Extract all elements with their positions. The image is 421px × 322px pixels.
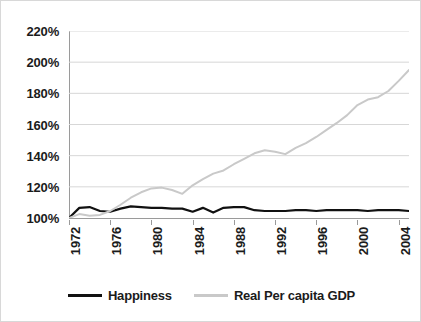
y-tick-label: 220% (27, 25, 59, 38)
chart-legend: HappinessReal Per capita GDP (1, 289, 421, 302)
x-tick-mark (110, 220, 111, 225)
x-tick-label: 1972 (69, 227, 82, 255)
x-tick-mark (69, 220, 70, 225)
x-tick-mark (316, 220, 317, 225)
x-tick-label: 2004 (399, 227, 412, 255)
legend-item-happiness[interactable]: Happiness (68, 289, 172, 302)
y-tick-label: 180% (27, 87, 59, 100)
x-tick-label: 2000 (357, 227, 370, 255)
series-line-happiness (69, 206, 409, 218)
plot-svg (69, 31, 409, 218)
happiness-vs-gdp-line-chart: 220%200%180%160%140%120%100% 19721976198… (0, 0, 421, 322)
legend-label: Happiness (108, 289, 172, 302)
x-axis: 197219761980198419881992199620002004 (69, 220, 409, 282)
legend-line-swatch-icon (68, 294, 102, 297)
x-tick-label: 1992 (275, 227, 288, 255)
gridlines (69, 31, 409, 218)
legend-label: Real Per capita GDP (234, 289, 355, 302)
x-tick-mark (151, 220, 152, 225)
x-tick-mark (357, 220, 358, 225)
plot-area (69, 31, 409, 218)
x-tick-label: 1980 (151, 227, 164, 255)
y-tick-label: 160% (27, 118, 59, 131)
legend-line-swatch-icon (194, 294, 228, 297)
x-tick-mark (275, 220, 276, 225)
x-tick-mark (193, 220, 194, 225)
y-tick-label: 100% (27, 212, 59, 225)
x-tick-label: 1988 (234, 227, 247, 255)
data-series-group (69, 70, 409, 218)
y-tick-label: 120% (27, 180, 59, 193)
series-line-real-per-capita-gdp (69, 70, 409, 218)
x-tick-label: 1976 (110, 227, 123, 255)
y-axis: 220%200%180%160%140%120%100% (1, 1, 65, 322)
x-tick-mark (399, 220, 400, 225)
x-axis-line (69, 218, 409, 219)
x-tick-label: 1984 (193, 227, 206, 255)
x-tick-mark (234, 220, 235, 225)
legend-item-real-per-capita-gdp[interactable]: Real Per capita GDP (194, 289, 355, 302)
y-tick-label: 200% (27, 56, 59, 69)
x-tick-label: 1996 (316, 227, 329, 255)
y-tick-label: 140% (27, 149, 59, 162)
